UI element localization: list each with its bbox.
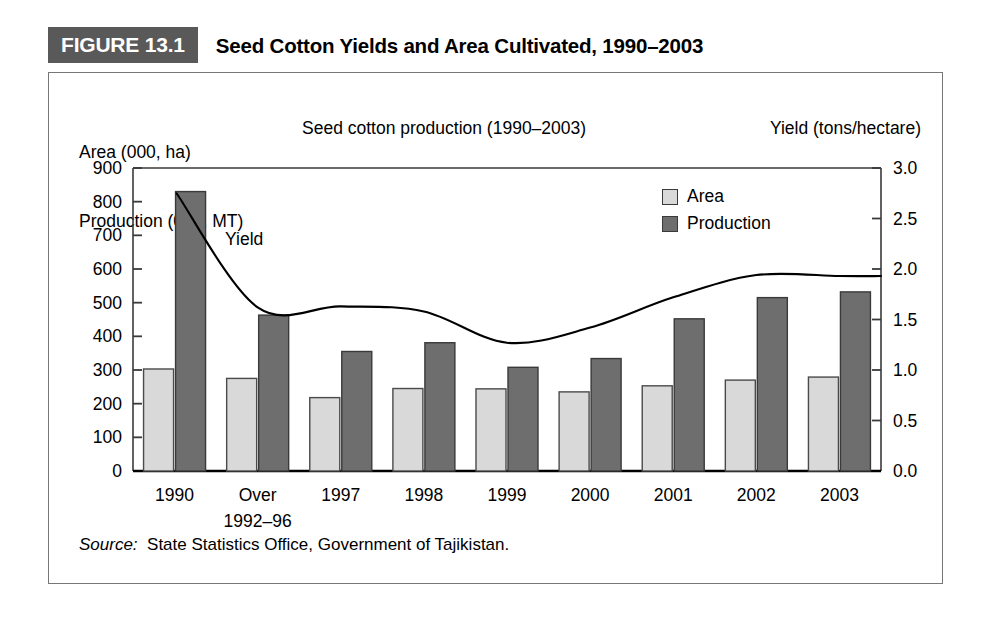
bar-production (674, 319, 704, 471)
bar-area (642, 386, 672, 471)
y-axis-tick-label: 600 (93, 259, 122, 279)
x-axis-category-label: 1997 (321, 485, 360, 505)
chart-canvas: 01002003004005006007008009000.00.51.01.5… (49, 73, 944, 585)
yield-line-annotation: Yield (225, 229, 263, 249)
x-axis-category-label: 1992–96 (224, 511, 292, 531)
y2-axis-tick-label: 2.5 (893, 209, 917, 229)
figure-page: { "figure": { "tag": "FIGURE 13.1", "tit… (0, 0, 994, 617)
bar-production (840, 292, 870, 471)
source-body: State Statistics Office, Government of T… (147, 535, 509, 554)
source-text (138, 535, 147, 554)
y2-axis-tick-label: 3.0 (893, 158, 918, 178)
bar-area (476, 389, 506, 471)
x-axis-category-label: 1999 (488, 485, 527, 505)
y-axis-tick-label: 500 (93, 293, 122, 313)
figure-body-box: Area (000, ha) Production (000, MT) Seed… (48, 72, 943, 584)
figure-title: Seed Cotton Yields and Area Cultivated, … (198, 27, 703, 65)
bar-production (259, 315, 289, 471)
bar-production (425, 343, 455, 471)
y2-axis-tick-label: 1.0 (893, 360, 918, 380)
x-axis-category-label: 2003 (820, 485, 859, 505)
bar-production (757, 298, 787, 471)
x-axis-category-label: 1990 (155, 485, 194, 505)
x-axis-category-label: 2000 (571, 485, 610, 505)
bar-area (808, 377, 838, 471)
bar-area (725, 380, 755, 471)
bar-production (591, 359, 621, 471)
bar-area (227, 378, 257, 471)
x-axis-category-label: 2001 (654, 485, 693, 505)
y2-axis-tick-label: 0.5 (893, 411, 917, 431)
y-axis-tick-label: 900 (93, 158, 122, 178)
y-axis-tick-label: 0 (112, 461, 122, 481)
y-axis-tick-label: 100 (93, 427, 122, 447)
bar-area (144, 369, 174, 471)
x-axis-category-label: 2002 (737, 485, 776, 505)
y-axis-tick-label: 300 (93, 360, 122, 380)
figure-header: FIGURE 13.1 Seed Cotton Yields and Area … (48, 27, 945, 65)
source-label: Source: (79, 535, 138, 554)
y-axis-tick-label: 200 (93, 394, 122, 414)
bar-area (310, 398, 340, 471)
bar-area (559, 392, 589, 471)
y-axis-tick-label: 400 (93, 326, 122, 346)
bar-production (508, 367, 538, 471)
chart-plot-area: 01002003004005006007008009000.00.51.01.5… (49, 73, 944, 585)
y2-axis-tick-label: 0.0 (893, 461, 918, 481)
y2-axis-tick-label: 2.0 (893, 259, 918, 279)
figure-number-tag: FIGURE 13.1 (48, 27, 198, 63)
x-axis-category-label: Over (239, 485, 277, 505)
x-axis-category-label: 1998 (404, 485, 443, 505)
y2-axis-tick-label: 1.5 (893, 310, 917, 330)
bar-area (393, 389, 423, 471)
bar-production (342, 351, 372, 471)
y-axis-tick-label: 800 (93, 192, 122, 212)
source-note: Source: State Statistics Office, Governm… (79, 535, 509, 555)
y-axis-tick-label: 700 (93, 225, 122, 245)
